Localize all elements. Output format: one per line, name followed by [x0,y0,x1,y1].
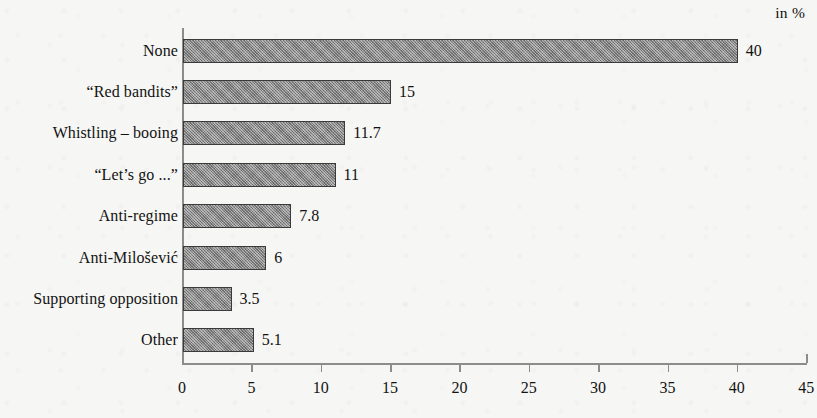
category-label: Whistling – booing [53,124,178,142]
x-axis-tick [737,363,739,372]
bar [183,246,266,270]
x-axis-tick [390,363,392,372]
bar-row: “Let’s go ...” 11 [0,154,817,195]
bar-value-label: 7.8 [299,207,319,225]
x-axis-tick [806,354,808,363]
category-label: None [143,42,178,60]
bar-value-label: 15 [399,83,415,101]
bar-row: “Red bandits” 15 [0,71,817,112]
bar-value-label: 11 [344,166,359,184]
category-label: Supporting opposition [33,290,178,308]
x-axis-tick [529,363,531,372]
bar-value-label: 40 [746,42,762,60]
x-axis-tick [251,363,253,372]
x-axis-tick [598,363,600,372]
bar-row: Anti-Milošević 6 [0,237,817,278]
bar [183,39,738,63]
bar-group: 6 [183,246,282,270]
bar-value-label: 3.5 [240,290,260,308]
x-axis-tick [182,354,184,363]
x-axis-tick [459,363,461,372]
bar-group: 15 [183,80,415,104]
x-axis-tick-label: 10 [313,379,329,397]
x-axis-tick-label: 35 [660,379,676,397]
bar-rows: None 40 “Red bandits” 15 Whistling – boo… [0,30,817,361]
bar [183,287,232,311]
bar-row: None 40 [0,30,817,71]
x-axis-tick-label: 20 [451,379,467,397]
bar [183,121,345,145]
bar [183,328,254,352]
x-axis-tick-label: 25 [521,379,537,397]
bar-value-label: 5.1 [262,331,282,349]
x-axis-tick-label: 5 [247,379,255,397]
x-axis-tick-label: 40 [729,379,745,397]
bar-group: 3.5 [183,287,260,311]
bar-value-label: 11.7 [353,124,380,142]
plot-area: None 40 “Red bandits” 15 Whistling – boo… [0,0,817,418]
category-label: “Let’s go ...” [94,166,178,184]
bar-group: 11 [183,163,359,187]
bar-group: 40 [183,39,762,63]
bar-row: Anti-regime 7.8 [0,196,817,237]
x-axis-tick [668,363,670,372]
bar-row: Other 5.1 [0,320,817,361]
bar-group: 5.1 [183,328,282,352]
bar [183,204,291,228]
category-label: “Red bandits” [87,83,179,101]
bar-row: Whistling – booing 11.7 [0,113,817,154]
category-label: Other [141,331,178,349]
bar-row: Supporting opposition 3.5 [0,278,817,319]
bar [183,80,391,104]
x-axis-tick-label: 45 [798,379,814,397]
bar-group: 7.8 [183,204,319,228]
x-axis-line: 0 5 10 15 20 25 30 35 40 45 [182,363,807,365]
x-axis-tick-label: 0 [178,379,186,397]
x-axis-tick-label: 30 [590,379,606,397]
x-axis-tick [321,363,323,372]
bar [183,163,336,187]
bar-value-label: 6 [274,249,282,267]
category-label: Anti-regime [99,207,178,225]
bar-group: 11.7 [183,121,381,145]
category-label: Anti-Milošević [79,249,178,267]
bar-chart-figure: in % None 40 “Red bandits” 15 Whistling … [0,0,817,418]
x-axis-tick-label: 15 [382,379,398,397]
